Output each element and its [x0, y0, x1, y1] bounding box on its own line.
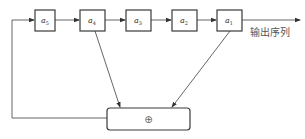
lfsr-diagram: a5 a4 a3 a2 a1 输出序列 ⊕ — [0, 0, 305, 139]
xor-symbol-icon: ⊕ — [144, 114, 152, 125]
register-a3: a3 — [126, 10, 151, 31]
xor-adder: ⊕ — [107, 108, 190, 130]
register-a5: a5 — [35, 10, 55, 31]
output-sequence-label: 输出序列 — [250, 26, 290, 38]
tap-arrow-a1 — [172, 31, 230, 107]
register-a4: a4 — [80, 10, 105, 31]
register-a1: a1 — [217, 10, 242, 31]
register-a2: a2 — [172, 10, 197, 31]
tap-arrow-a4 — [95, 31, 120, 107]
feedback-line — [12, 20, 107, 118]
